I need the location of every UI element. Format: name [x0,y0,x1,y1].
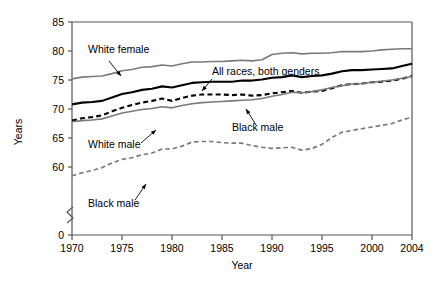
x-tick-label: 1980 [160,242,184,254]
y-tick-label: 80 [52,45,64,57]
y-axis-title: Years [12,119,24,145]
y-tick-label: 75 [52,74,64,86]
series-annotation-label: All races, both genders [212,65,319,77]
series-annotation-label: White female [88,43,149,55]
series-annotation-label: Black male [232,121,284,133]
y-tick-label: 70 [52,103,64,115]
series-annotation-label: Black male [88,197,140,209]
x-axis-title: Year [231,259,253,271]
x-tick-label: 1975 [110,242,134,254]
x-tick-label: 1990 [260,242,284,254]
x-tick-label: 2000 [360,242,384,254]
chart-container: 0606570758085 19701975198019851990199520… [0,0,436,283]
y-tick-label: 65 [52,132,64,144]
y-tick-label: 60 [52,161,64,173]
x-tick-label: 1995 [310,242,334,254]
x-tick-label: 1985 [210,242,234,254]
x-tick-label: 2004 [400,242,424,254]
series-annotation-label: White male [88,138,141,150]
x-tick-label: 1970 [60,242,84,254]
y-tick-label: 0 [58,229,64,241]
y-tick-label: 85 [52,16,64,28]
life-expectancy-line-chart: 0606570758085 19701975198019851990199520… [0,0,436,283]
y-axis-break-icon [67,207,77,223]
